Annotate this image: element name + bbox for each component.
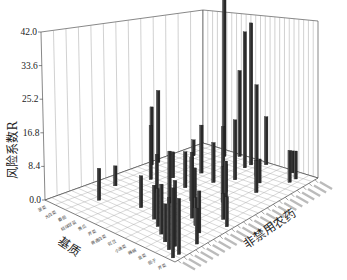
matrix-label: 芹菜 <box>87 227 98 238</box>
y-tick-label: 25.2 <box>22 94 39 104</box>
y-tick-label: 33.6 <box>21 61 38 71</box>
matrix-label: 豇豆 <box>107 238 117 247</box>
x-axis-title: 基质 <box>55 234 83 259</box>
matrix-label: 韭菜 <box>137 251 148 262</box>
matrix-label: 茄子 <box>147 257 157 267</box>
matrix-label: 辣椒 <box>127 246 138 257</box>
y-tick-label: 16.8 <box>23 128 40 138</box>
matrix-label: 芹菜 <box>157 261 168 272</box>
matrix-label: 小油菜 <box>113 242 128 255</box>
y-tick-label: 8.4 <box>28 161 40 171</box>
y-tick-label: 0.0 <box>29 195 41 205</box>
y-axis-title: 风险系数R <box>5 121 20 179</box>
matrix-label: 大白菜 <box>43 208 58 221</box>
bar3d-chart: 0.08.416.825.233.642.0 菠菜大白菜番茄结球甘蓝黄瓜芹菜普通… <box>0 0 347 280</box>
matrix-label: 番茄 <box>57 214 67 224</box>
matrix-label: 黄瓜 <box>77 223 88 234</box>
matrix-label: 菠菜 <box>37 204 48 215</box>
y-tick-label: 42.0 <box>20 27 37 37</box>
